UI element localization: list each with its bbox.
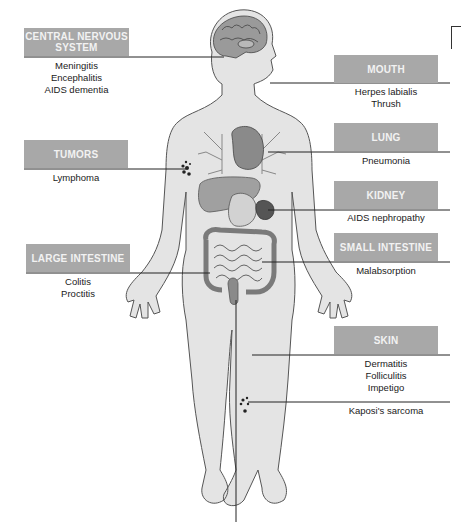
label-heading: SKIN (374, 335, 399, 346)
condition-item: Proctitis (26, 288, 130, 300)
label-heading: TUMORS (54, 149, 99, 160)
label-heading: SMALL INTESTINE (340, 242, 432, 253)
label-small-intestine: SMALL INTESTINE (334, 233, 438, 261)
label-heading: LUNG (371, 132, 400, 143)
mouth-conditions: Herpes labialis Thrush (334, 86, 438, 110)
condition-item: Folliculitis (334, 370, 438, 382)
kidney-conditions: AIDS nephropathy (334, 212, 438, 224)
condition-item: Encephalitis (24, 72, 129, 84)
label-tumors: TUMORS (24, 140, 128, 168)
stomach (229, 193, 257, 226)
label-heading-line: CENTRAL NERVOUS (25, 31, 128, 42)
lung-conditions: Pneumonia (334, 155, 438, 167)
condition-item: Malabsorption (334, 265, 438, 277)
label-large-intestine: LARGE INTESTINE (26, 244, 130, 272)
condition-item: AIDS nephropathy (334, 212, 438, 224)
skin-conditions: Dermatitis Folliculitis Impetigo (334, 358, 438, 394)
label-heading: MOUTH (367, 64, 405, 75)
condition-item: Meningitis (24, 60, 129, 72)
label-heading: KIDNEY (367, 190, 406, 201)
condition-item: Pneumonia (334, 155, 438, 167)
label-mouth: MOUTH (334, 55, 438, 83)
condition-item: Herpes labialis (334, 86, 438, 98)
condition-item: Thrush (334, 98, 438, 110)
label-central-nervous-system: CENTRAL NERVOUS SYSTEM (24, 28, 129, 56)
condition-item: Colitis (26, 276, 130, 288)
kaposi-sarcoma-condition: Kaposi's sarcoma (334, 405, 438, 417)
label-heading: LARGE INTESTINE (31, 253, 124, 264)
label-lung: LUNG (334, 123, 438, 151)
tumors-conditions: Lymphoma (24, 172, 128, 184)
label-skin: SKIN (334, 326, 438, 354)
condition-item: AIDS dementia (24, 84, 129, 96)
condition-item: Dermatitis (334, 358, 438, 370)
body-silhouette (126, 10, 352, 506)
cns-conditions: Meningitis Encephalitis AIDS dementia (24, 60, 129, 96)
condition-item: Lymphoma (24, 172, 128, 184)
heart (232, 126, 264, 169)
large-intestine-conditions: Colitis Proctitis (26, 276, 130, 300)
condition-item: Kaposi's sarcoma (334, 405, 438, 417)
corner-bracket (451, 26, 461, 49)
label-kidney: KIDNEY (334, 181, 438, 209)
label-heading-line: SYSTEM (25, 42, 128, 53)
condition-item: Impetigo (334, 382, 438, 394)
small-intestine-conditions: Malabsorption (334, 265, 438, 277)
